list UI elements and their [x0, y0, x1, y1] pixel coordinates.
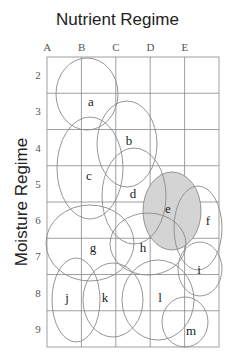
- column-labels: ABCDE: [43, 41, 188, 53]
- ellipse-label-c: c: [86, 168, 92, 183]
- row-label: 4: [35, 142, 41, 154]
- ellipse-a: [56, 58, 118, 130]
- ellipse-label-d: d: [130, 186, 137, 201]
- row-label: 3: [35, 105, 41, 117]
- column-label: A: [43, 41, 51, 53]
- row-label: 8: [35, 287, 41, 299]
- ellipse-label-h: h: [140, 240, 147, 255]
- column-label: D: [146, 41, 154, 53]
- edatopic-grid-diagram: ABCDE 23456789 abcdefghijklm: [0, 0, 235, 357]
- ellipse-label-j: j: [64, 290, 69, 305]
- ellipse-label-i: i: [197, 262, 201, 277]
- column-label: B: [78, 41, 85, 53]
- ellipse-label-b: b: [126, 133, 133, 148]
- row-label: 9: [35, 323, 41, 335]
- ellipse-label-a: a: [88, 94, 94, 109]
- ellipse-label-g: g: [90, 240, 97, 255]
- ellipse-label-k: k: [102, 290, 109, 305]
- ellipse-label-e: e: [165, 201, 171, 216]
- row-label: 5: [35, 178, 41, 190]
- ellipse-label-f: f: [206, 213, 211, 228]
- column-label: E: [181, 41, 188, 53]
- ellipse-e: [143, 172, 201, 250]
- row-label: 7: [35, 250, 41, 262]
- ellipse-label-m: m: [186, 323, 196, 338]
- row-label: 6: [35, 214, 41, 226]
- row-labels: 23456789: [35, 69, 41, 335]
- ellipse-j: [52, 258, 100, 342]
- ellipses: [46, 58, 222, 347]
- row-label: 2: [35, 69, 41, 81]
- column-label: C: [112, 41, 119, 53]
- ellipse-label-l: l: [158, 290, 162, 305]
